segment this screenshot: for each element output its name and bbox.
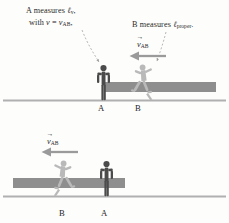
physics-figure: A measures ℓv, with v = vAB, B measures … bbox=[0, 0, 229, 223]
vector-arrow-accent-icon: → bbox=[47, 132, 54, 137]
rod-top bbox=[104, 82, 216, 92]
caption-a-measures: A measures ℓv, with v = vAB, bbox=[26, 6, 76, 29]
figure-graphics-layer bbox=[0, 0, 229, 223]
velocity-arrow-top bbox=[130, 52, 167, 61]
velocity-arrow-bottom bbox=[42, 148, 79, 157]
label-person-b-top: B bbox=[135, 103, 141, 113]
vector-v-symbol-top: →v bbox=[137, 40, 141, 49]
caption-a-line2: with v = vAB, bbox=[26, 18, 76, 30]
person-a-standing-bottom bbox=[100, 161, 113, 196]
caption-b-measures: B measures ℓproper. bbox=[132, 20, 193, 32]
label-person-a-bottom: A bbox=[101, 208, 107, 218]
caption-a-line1: A measures ℓv, bbox=[26, 6, 76, 15]
label-person-a-top: A bbox=[98, 103, 104, 113]
person-a-standing-top bbox=[97, 65, 110, 100]
label-person-b-bottom: B bbox=[59, 208, 65, 218]
velocity-label-bottom: →vAB bbox=[47, 137, 59, 146]
vector-arrow-accent-icon: → bbox=[137, 35, 144, 40]
vector-v-symbol-bottom: →v bbox=[47, 137, 51, 146]
leader-line-a bbox=[82, 30, 99, 62]
velocity-label-top: →vAB bbox=[137, 40, 149, 49]
